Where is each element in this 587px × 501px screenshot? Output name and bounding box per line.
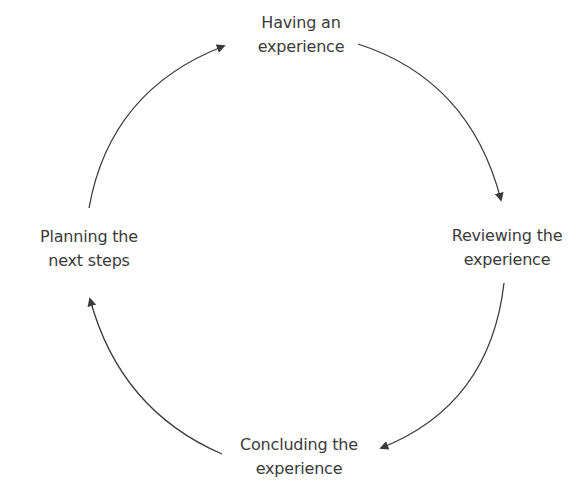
arrow-reviewing-to-concluding <box>381 283 504 448</box>
node-label-line2: experience <box>452 248 563 272</box>
node-having-an-experience: Having an experience <box>258 11 345 59</box>
node-label-line2: next steps <box>40 249 138 273</box>
node-label-line1: Having an <box>258 11 345 35</box>
node-label-line1: Concluding the <box>240 433 358 457</box>
arrow-concluding-to-planning <box>90 299 222 454</box>
node-planning-the-next-steps: Planning the next steps <box>40 225 138 273</box>
node-label-line2: experience <box>240 457 358 481</box>
node-label-line2: experience <box>258 35 345 59</box>
node-label-line1: Planning the <box>40 225 138 249</box>
experiential-learning-cycle-diagram: Having an experience Reviewing the exper… <box>0 0 587 501</box>
arrow-having-to-reviewing <box>358 44 501 200</box>
node-concluding-the-experience: Concluding the experience <box>240 433 358 481</box>
node-label-line1: Reviewing the <box>452 224 563 248</box>
node-reviewing-the-experience: Reviewing the experience <box>452 224 563 272</box>
arrow-planning-to-having <box>89 46 224 208</box>
